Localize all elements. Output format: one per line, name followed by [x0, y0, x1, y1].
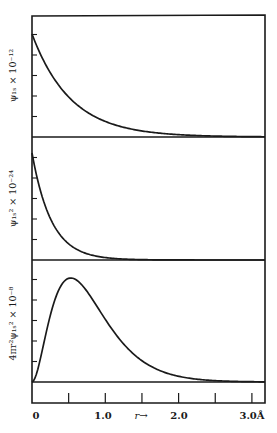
x-axis-ticks	[69, 393, 252, 403]
x-tick-label-2: 2.0	[170, 410, 187, 421]
radial-probability-curve	[32, 278, 265, 382]
figure-canvas	[0, 0, 277, 433]
frame	[32, 15, 265, 403]
psi-squared-curve	[32, 153, 265, 260]
x-tick-label-0: 0	[33, 410, 40, 421]
curves	[32, 34, 265, 382]
x-axis-label: r→	[134, 410, 147, 421]
x-tick-label-3: 3.0Å	[239, 410, 264, 421]
x-tick-label-1: 1.0	[94, 410, 111, 421]
panel-2-ylabel: ψ₁ₛ² × 10⁻²⁴	[7, 159, 18, 239]
psi-curve	[32, 34, 265, 137]
panel-1-ylabel: ψ₁ₛ × 10⁻¹²	[7, 36, 18, 116]
panel-3-ylabel: 4πr²ψ₁ₛ² × 10⁻⁸	[7, 274, 18, 374]
